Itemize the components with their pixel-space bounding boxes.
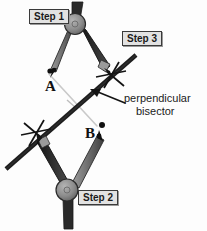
segment-ab — [49, 74, 97, 126]
point-b-label: B — [85, 126, 95, 141]
perpendicular-bisector-diagram: Step 1 Step 3 Step 2 A B perpendicular b… — [0, 0, 207, 231]
step-1-label: Step 1 — [29, 9, 69, 24]
step-3-label: Step 3 — [122, 31, 162, 46]
annotation-line-2: bisector — [124, 105, 207, 118]
perpendicular-bisector-annotation: perpendicular bisector — [124, 92, 207, 117]
annotation-line-1: perpendicular — [124, 92, 191, 104]
point-a-label: A — [45, 79, 56, 94]
perpendicular-bisector-line — [6, 55, 136, 169]
step-2-label: Step 2 — [78, 190, 118, 205]
annotation-arrow — [90, 89, 125, 103]
point-a-dot — [47, 68, 52, 73]
